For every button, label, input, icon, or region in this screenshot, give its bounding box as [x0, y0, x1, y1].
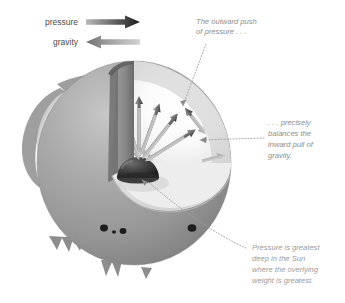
annotation-line: weight is greatest.	[252, 276, 313, 285]
annotation-outward-push: The outward push of pressure . . .	[196, 17, 257, 36]
annotation-line: deep in the Sun	[252, 254, 305, 263]
right-arrow-icon	[86, 15, 140, 28]
legend-item-gravity[interactable]: gravity	[53, 35, 140, 48]
annotation-line: of pressure . . .	[196, 27, 247, 36]
annotation-line: The outward push	[196, 17, 257, 26]
annotation-line: balances the	[268, 129, 311, 138]
annotation-line: . . . precisely	[268, 118, 312, 127]
left-arrow-icon	[86, 35, 140, 48]
annotation-line: gravity.	[268, 151, 292, 160]
annotation-line: where the overlying	[252, 265, 319, 274]
legend: pressure gravity	[45, 15, 140, 48]
legend-label-gravity: gravity	[53, 37, 79, 47]
cutaway-wedge	[108, 60, 232, 212]
annotation-line: inward pull of	[268, 140, 314, 149]
legend-item-pressure[interactable]: pressure	[45, 15, 140, 28]
figure-canvas: pressure gravity The outward push of pre…	[0, 0, 345, 303]
annotation-precisely-balances: . . . precisely balances the inward pull…	[268, 118, 314, 160]
legend-label-pressure: pressure	[45, 17, 78, 27]
annotation-line: Pressure is greatest	[252, 243, 320, 252]
sun-diagram: pressure gravity The outward push of pre…	[0, 0, 345, 303]
annotation-pressure-greatest: Pressure is greatest deep in the Sun whe…	[252, 243, 320, 285]
